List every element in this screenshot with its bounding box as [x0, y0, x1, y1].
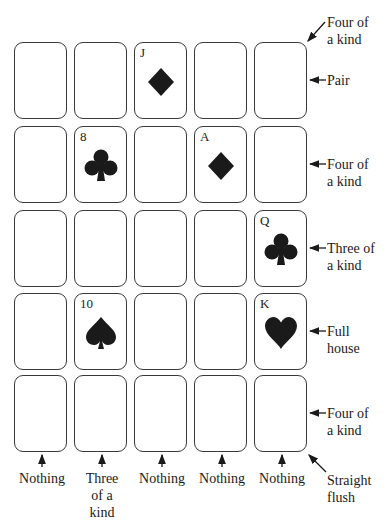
card-rank: Q: [260, 214, 269, 228]
club-icon: [261, 230, 301, 270]
label-row-2: Four of a kind: [327, 156, 369, 190]
label-line: a kind: [327, 422, 369, 439]
diamond-icon: [201, 146, 241, 186]
card-r4-c5: K: [254, 293, 307, 370]
label-line: Four of: [327, 14, 369, 31]
label-line: Four of: [327, 156, 369, 173]
card-r5-c1: [14, 375, 67, 452]
label-line: Pair: [327, 72, 350, 89]
label-row-1: Pair: [327, 72, 350, 89]
heart-icon: [261, 313, 301, 353]
card-r2-c1: [14, 126, 67, 203]
card-r2-c5: [254, 126, 307, 203]
label-col-5: Nothing: [247, 470, 317, 487]
label-line: Three of: [327, 240, 375, 257]
card-r3-c2: [74, 210, 127, 287]
label-line: flush: [327, 489, 371, 506]
label-line: Full: [327, 323, 360, 340]
card-rank: 8: [80, 130, 87, 144]
spade-icon: [81, 313, 121, 353]
label-line: a kind: [327, 31, 369, 48]
card-r3-c5: Q: [254, 210, 307, 287]
card-r5-c2: [74, 375, 127, 452]
club-icon: [81, 146, 121, 186]
label-line: kind: [67, 504, 137, 521]
card-r4-c4: [194, 293, 247, 370]
label-row-4: Full house: [327, 323, 360, 357]
card-rank: K: [260, 297, 269, 311]
card-r3-c1: [14, 210, 67, 287]
card-r1-c5: [254, 42, 307, 119]
diamond-icon: [141, 62, 181, 102]
card-r2-c3: [134, 126, 187, 203]
card-r5-c5: [254, 375, 307, 452]
card-rank: 10: [80, 297, 93, 311]
card-r1-c4: [194, 42, 247, 119]
card-r2-c4: A: [194, 126, 247, 203]
card-r3-c4: [194, 210, 247, 287]
label-line: house: [327, 340, 360, 357]
label-line: a kind: [327, 257, 375, 274]
card-r4-c1: [14, 293, 67, 370]
label-line: Four of: [327, 405, 369, 422]
label-line: Nothing: [247, 470, 317, 487]
label-line: Straight: [327, 472, 371, 489]
card-r1-c3: J: [134, 42, 187, 119]
label-row-5: Four of a kind: [327, 405, 369, 439]
card-r2-c2: 8: [74, 126, 127, 203]
label-line: of a: [67, 487, 137, 504]
card-rank: A: [200, 130, 209, 144]
label-diagonal-top: Four of a kind: [327, 14, 369, 48]
card-rank: J: [140, 46, 145, 60]
card-r3-c3: [134, 210, 187, 287]
card-r1-c2: [74, 42, 127, 119]
label-row-3: Three of a kind: [327, 240, 375, 274]
card-r4-c2: 10: [74, 293, 127, 370]
label-line: a kind: [327, 173, 369, 190]
card-r1-c1: [14, 42, 67, 119]
card-r5-c4: [194, 375, 247, 452]
label-diagonal-bottom: Straight flush: [327, 472, 371, 506]
card-r4-c3: [134, 293, 187, 370]
card-r5-c3: [134, 375, 187, 452]
